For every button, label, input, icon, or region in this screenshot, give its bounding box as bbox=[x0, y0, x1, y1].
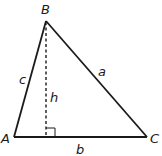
vertex-label-c: C bbox=[150, 131, 160, 146]
side-label-a: a bbox=[98, 64, 106, 79]
vertex-label-b: B bbox=[41, 2, 50, 17]
side-label-c: c bbox=[19, 72, 26, 87]
vertex-label-a: A bbox=[0, 131, 10, 146]
side-label-b: b bbox=[76, 142, 84, 156]
triangle-diagram: B A C c a b h bbox=[0, 0, 162, 156]
altitude-label-h: h bbox=[50, 90, 58, 105]
side-a bbox=[46, 21, 147, 137]
right-angle-marker bbox=[46, 128, 55, 137]
